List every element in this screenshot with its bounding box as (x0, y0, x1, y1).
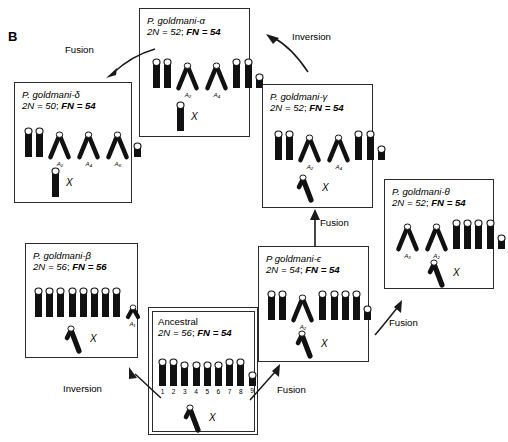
chromosome (486, 219, 495, 251)
diploid-count: 2N = 52 (392, 197, 426, 208)
chromosome-number-label: 7 (228, 388, 232, 395)
x-chromosome-label: X (322, 183, 329, 193)
chromosome (463, 219, 472, 251)
species-name: P. goldmani-α (147, 15, 221, 26)
x-chromosome (295, 329, 315, 359)
chromosome (56, 287, 65, 319)
arrow-label-fusion-2: Fusion (320, 217, 349, 228)
chromosome-arm-label: A₂ (57, 160, 64, 167)
chromosome: 8 (236, 358, 245, 388)
chromosome-arm-label: A₄ (86, 160, 93, 167)
x-chromosome (296, 173, 316, 203)
arrow-label-fusion-3: Fusion (389, 317, 418, 328)
chromosome (244, 58, 253, 90)
box-title-ancestral: Ancestral 2N = 56; FN = 54 (158, 316, 232, 339)
x-chromosome (183, 403, 203, 433)
chromosome (101, 287, 110, 319)
diploid-count: 2N = 54 (266, 264, 300, 275)
species-name: P. goldmani-δ (22, 89, 96, 100)
counts-line: 2N = 52; FN = 54 (270, 102, 344, 113)
sex-chromosome-row: X (183, 403, 216, 433)
karyotype-box-epsilon: P goldmani-ϵ 2N = 54; FN = 54 A₂ (258, 246, 369, 362)
chromosome (285, 130, 294, 162)
chromosome-arm-label: A₄ (214, 91, 221, 98)
chromosome: A₄ (75, 127, 102, 161)
x-chromosome-label: X (191, 112, 198, 122)
chromosome (318, 290, 327, 322)
chromosome (474, 219, 483, 251)
chromosome: A₄ (203, 58, 230, 92)
counts-line: 2N = 56; FN = 56 (33, 261, 107, 272)
chromosome (377, 130, 386, 162)
species-name: P goldmani-ϵ (266, 253, 340, 264)
fundamental-number: FN = 54 (309, 102, 343, 113)
chromosome (452, 219, 461, 251)
chromosome (497, 219, 506, 251)
chromosome-number-label: 4 (194, 388, 198, 395)
sex-chromosome-row: X (295, 329, 328, 359)
karyotype-box-theta: P. goldmani-θ 2N = 52; FN = 54 A₃ A₂ X (384, 179, 494, 289)
karyotype-box-beta: P. goldmani-β 2N = 56; FN = 56 A₁ (25, 243, 138, 358)
box-title-beta: P. goldmani-β 2N = 56; FN = 56 (33, 250, 107, 273)
chromosome-arm-label: A₂ (307, 163, 314, 170)
x-chromosome-label: X (209, 413, 216, 423)
chromosome (330, 290, 339, 322)
chromosome-row: A₃ A₂ (394, 219, 508, 253)
counts-line: 2N = 54; FN = 54 (266, 264, 340, 275)
chromosome (112, 287, 121, 319)
diploid-count: 2N = 52 (270, 102, 304, 113)
chromosome (232, 58, 241, 90)
sex-chromosome-row: X (64, 324, 97, 354)
chromosome (34, 287, 43, 319)
chromosome: A₆ (104, 127, 131, 161)
chromosome-row: A₂ A₄ A₆ (24, 127, 145, 161)
chromosome: A₃ (394, 219, 421, 253)
chromosome: A₂ (174, 58, 201, 92)
species-name: P. goldmani-θ (392, 186, 466, 197)
chromosome-arm-label: A₁ (129, 320, 135, 327)
arrow-label-fusion-4: Fusion (277, 384, 306, 395)
x-chromosome (64, 324, 84, 354)
chromosome (366, 130, 375, 162)
x-chromosome (176, 101, 185, 133)
karyotype-box-delta: P. goldmani-δ 2N = 50; FN = 54 A₂ A₄ A₆ … (14, 82, 132, 203)
chromosome-arm-label: A₄ (336, 163, 343, 170)
species-name: P. goldmani-β (33, 250, 107, 261)
arrow-fusion-ancestral-to-epsilon (247, 359, 295, 403)
chromosome: A₂ (423, 219, 450, 253)
counts-line: 2N = 56; FN = 54 (158, 327, 232, 338)
fundamental-number: FN = 54 (305, 264, 339, 275)
chromosome: 5 (203, 358, 212, 388)
x-chromosome (427, 258, 447, 288)
chromosome: 2 (169, 358, 178, 388)
chromosome: 6 (214, 358, 223, 388)
chromosome-number-label: 8 (239, 388, 243, 395)
chromosome-row: A₂ (267, 290, 374, 324)
diploid-count: 2N = 56 (158, 327, 192, 338)
chromosome-number-label: 3 (183, 388, 187, 395)
chromosome-row: A₂ A₄ (152, 58, 266, 92)
arrow-fusion-alpha-to-delta (97, 44, 159, 80)
arrow-fusion-epsilon-to-gamma (306, 208, 324, 248)
chromosome: A₂ (289, 290, 316, 324)
chromosome (267, 290, 276, 322)
chromosome (274, 130, 283, 162)
box-title-epsilon: P goldmani-ϵ 2N = 54; FN = 54 (266, 253, 340, 276)
arrow-label-inversion-2: Inversion (63, 383, 102, 394)
chromosome (133, 127, 142, 159)
box-title-gamma: P. goldmani-γ 2N = 52; FN = 54 (270, 91, 344, 114)
chromosome-row: A₂ A₄ (274, 130, 388, 164)
chromosome-arm-label: A₃ (404, 252, 411, 259)
fundamental-number: FN = 54 (186, 26, 220, 37)
counts-line: 2N = 50; FN = 54 (22, 100, 96, 111)
chromosome (24, 127, 33, 159)
sex-chromosome-row: X (51, 167, 73, 199)
fundamental-number: FN = 54 (61, 100, 95, 111)
fundamental-number: FN = 54 (197, 327, 231, 338)
x-chromosome-label: X (90, 334, 97, 344)
diploid-count: 2N = 52 (147, 26, 181, 37)
x-chromosome (51, 167, 60, 199)
chromosome-number-label: 6 (217, 388, 221, 395)
chromosome (68, 287, 77, 319)
chromosome (163, 58, 172, 90)
